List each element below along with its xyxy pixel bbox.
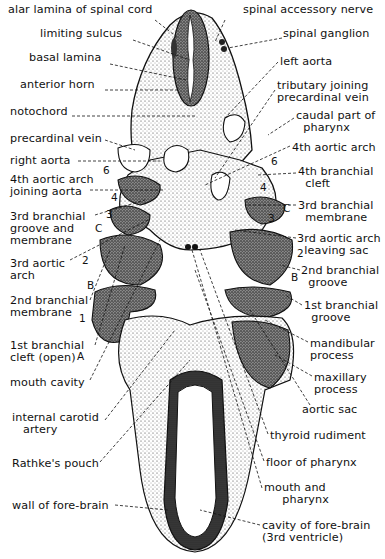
arch-letter-b-left: B <box>87 280 94 291</box>
label-anterior-horn: anterior horn <box>20 79 95 91</box>
right-arch-2 <box>230 229 293 285</box>
label-caudal-part-of-pharynx: caudal part of pharynx <box>296 110 375 134</box>
label-maxillary-process: maxillary process <box>314 372 367 396</box>
label-4th-aortic-arch: 4th aortic arch <box>292 142 376 154</box>
arch-number-2-left: 2 <box>82 255 89 266</box>
label-floor-of-pharynx: floor of pharynx <box>266 457 357 469</box>
right-arch-1 <box>225 287 292 318</box>
arch-letter-a-left: A <box>77 351 84 362</box>
label-2nd-branchial-membrane: 2nd branchial membrane <box>10 295 88 319</box>
label-aortic-sac: aortic sac <box>302 404 357 416</box>
arch-letter-b-right: B <box>291 272 298 283</box>
label-wall-of-fore-brain: wall of fore-brain <box>12 500 109 512</box>
label-3rd-branchial-groove-and-membrane: 3rd branchial groove and membrane <box>10 211 85 247</box>
label-alar-lamina: alar lamina of spinal cord <box>8 4 153 16</box>
label-3rd-branchial-membrane: 3rd branchial membrane <box>298 200 373 224</box>
arch-number-2-right: 2 <box>297 248 304 259</box>
arch-number-1-left: 1 <box>79 313 86 324</box>
label-precardinal-vein: precardinal vein <box>10 133 102 145</box>
label-spinal-ganglion: spinal ganglion <box>283 28 369 40</box>
left-arch-2 <box>100 235 163 285</box>
spinal-ganglion-shape <box>219 39 225 45</box>
label-1st-branchial-cleft: 1st branchial cleft (open) <box>10 340 84 364</box>
label-2nd-branchial-groove: 2nd branchial groove <box>301 265 379 289</box>
fore-brain-cavity <box>175 385 216 537</box>
label-1st-branchial-groove: 1st branchial groove <box>304 300 378 324</box>
label-4th-aortic-arch-joining-aorta: 4th aortic arch joining aorta <box>10 174 94 198</box>
arch-number-4-left: 4 <box>111 192 118 203</box>
label-mandibular-process: mandibular process <box>310 338 375 362</box>
arch-letter-c-left: C <box>95 223 102 234</box>
arch-letter-c-right: C <box>283 203 290 214</box>
label-3rd-aortic-arch-leaving-sac: 3rd aortic arch leaving sac <box>297 233 381 257</box>
label-notochord: notochord <box>10 106 68 118</box>
label-rathkes-pouch: Rathke's pouch <box>12 458 99 470</box>
label-limiting-sulcus: limiting sulcus <box>40 28 122 40</box>
arch-number-3-right: 3 <box>268 213 275 224</box>
label-cavity-of-fore-brain: cavity of fore-brain (3rd ventricle) <box>262 520 370 544</box>
label-basal-lamina: basal lamina <box>29 52 101 64</box>
label-4th-branchial-cleft: 4th branchial cleft <box>298 166 373 190</box>
label-3rd-aortic-arch: 3rd aortic arch <box>10 258 65 282</box>
arch-number-4-right: 4 <box>260 182 267 193</box>
label-internal-carotid-artery: internal carotid artery <box>12 412 99 436</box>
arch-number-3-left: 3 <box>106 209 113 220</box>
label-mouth-and-pharynx: mouth and pharynx <box>264 482 329 506</box>
label-spinal-accessory-nerve: spinal accessory nerve <box>243 4 373 16</box>
label-left-aorta: left aorta <box>280 56 332 68</box>
arch-number-6-left: 6 <box>103 165 110 176</box>
label-right-aorta: right aorta <box>10 155 70 167</box>
label-thyroid-rudiment: thyroid rudiment <box>270 430 366 442</box>
embryo-section-diagram: alar lamina of spinal cord limiting sulc… <box>0 0 385 559</box>
arch-number-6-right: 6 <box>271 156 278 167</box>
label-mouth-cavity: mouth cavity <box>10 377 85 389</box>
label-tributary-joining-precardinal-vein: tributary joining precardinal vein <box>277 80 369 104</box>
